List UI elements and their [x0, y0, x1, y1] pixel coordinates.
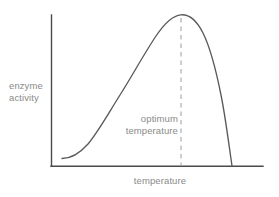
y-axis-label-line-2: activity [9, 92, 43, 104]
optimum-annotation-line-2: temperature [118, 125, 178, 137]
optimum-temperature-annotation: optimum temperature [118, 113, 178, 136]
y-axis-label: enzyme activity [9, 80, 43, 103]
y-axis-label-line-1: enzyme [9, 80, 43, 92]
enzyme-activity-curve [62, 15, 232, 166]
enzyme-activity-temperature-figure: enzyme activity optimum temperature temp… [0, 0, 279, 197]
optimum-annotation-line-1: optimum [118, 113, 178, 125]
x-axis-label: temperature [110, 175, 210, 187]
